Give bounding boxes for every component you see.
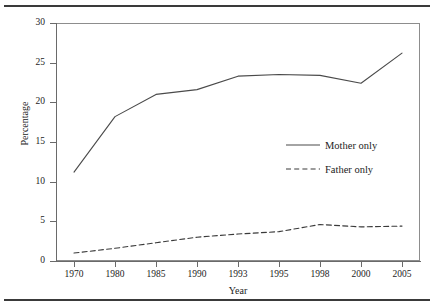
y-axis-title: Percentage	[19, 79, 30, 169]
legend: Mother only Father only	[286, 133, 414, 181]
x-axis-title: Year	[56, 285, 420, 296]
figure-top-rule	[4, 5, 430, 7]
x-axis-tick	[197, 261, 198, 267]
y-axis-tick-label: 25	[5, 58, 45, 68]
x-axis-tick	[74, 261, 75, 267]
x-axis-tick-label: 1998	[298, 270, 342, 280]
x-axis-tick-label: 1970	[52, 270, 96, 280]
figure-container: 051015202530 197019801985199019931995199…	[0, 0, 434, 308]
x-axis-tick	[238, 261, 239, 267]
x-axis-tick-label: 1980	[93, 270, 137, 280]
series-line-father-only	[74, 225, 402, 254]
x-axis-tick	[279, 261, 280, 267]
y-axis-tick-label: 5	[5, 216, 45, 226]
y-axis-tick-label: 30	[5, 18, 45, 28]
y-axis-tick	[50, 261, 56, 262]
x-axis-tick-label: 2005	[380, 270, 424, 280]
y-axis-tick-label: 10	[5, 177, 45, 187]
x-axis-tick-label: 1995	[257, 270, 301, 280]
x-axis-tick	[361, 261, 362, 267]
legend-label-father-only: Father only	[320, 164, 373, 175]
legend-item-father-only: Father only	[286, 157, 414, 181]
y-axis-tick-label: 0	[5, 256, 45, 266]
x-axis-tick	[402, 261, 403, 267]
x-axis-tick	[320, 261, 321, 267]
figure-bottom-rule	[4, 299, 430, 301]
x-axis-tick-label: 1990	[175, 270, 219, 280]
legend-item-mother-only: Mother only	[286, 133, 414, 157]
x-axis-tick-label: 2000	[339, 270, 383, 280]
legend-swatch-dashed-line-icon	[286, 164, 320, 174]
legend-label-mother-only: Mother only	[320, 140, 377, 151]
x-axis-tick-label: 1993	[216, 270, 260, 280]
x-axis-tick-label: 1985	[134, 270, 178, 280]
legend-swatch-solid-line-icon	[286, 140, 320, 150]
x-axis-tick	[115, 261, 116, 267]
x-axis-tick	[156, 261, 157, 267]
